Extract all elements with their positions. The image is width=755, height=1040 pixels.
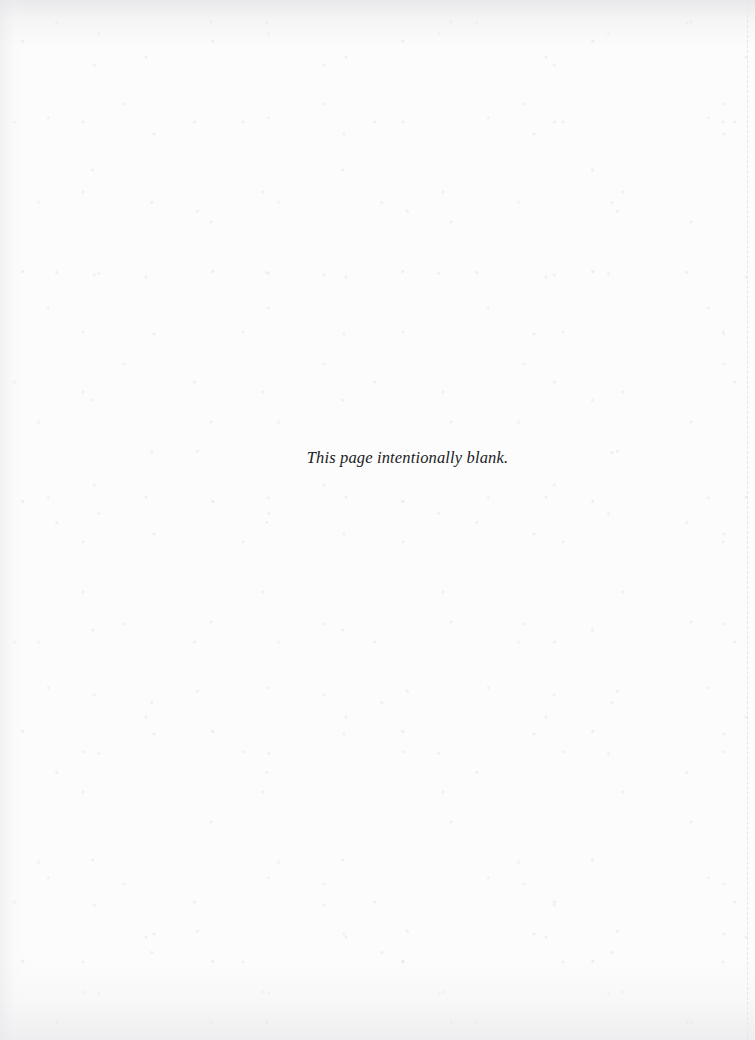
page-background	[0, 0, 755, 1040]
blank-page-notice-text: This page intentionally blank.	[307, 447, 509, 469]
scanned-page: This page intentionally blank.	[0, 0, 755, 1040]
blank-page-notice: This page intentionally blank.	[0, 447, 755, 469]
